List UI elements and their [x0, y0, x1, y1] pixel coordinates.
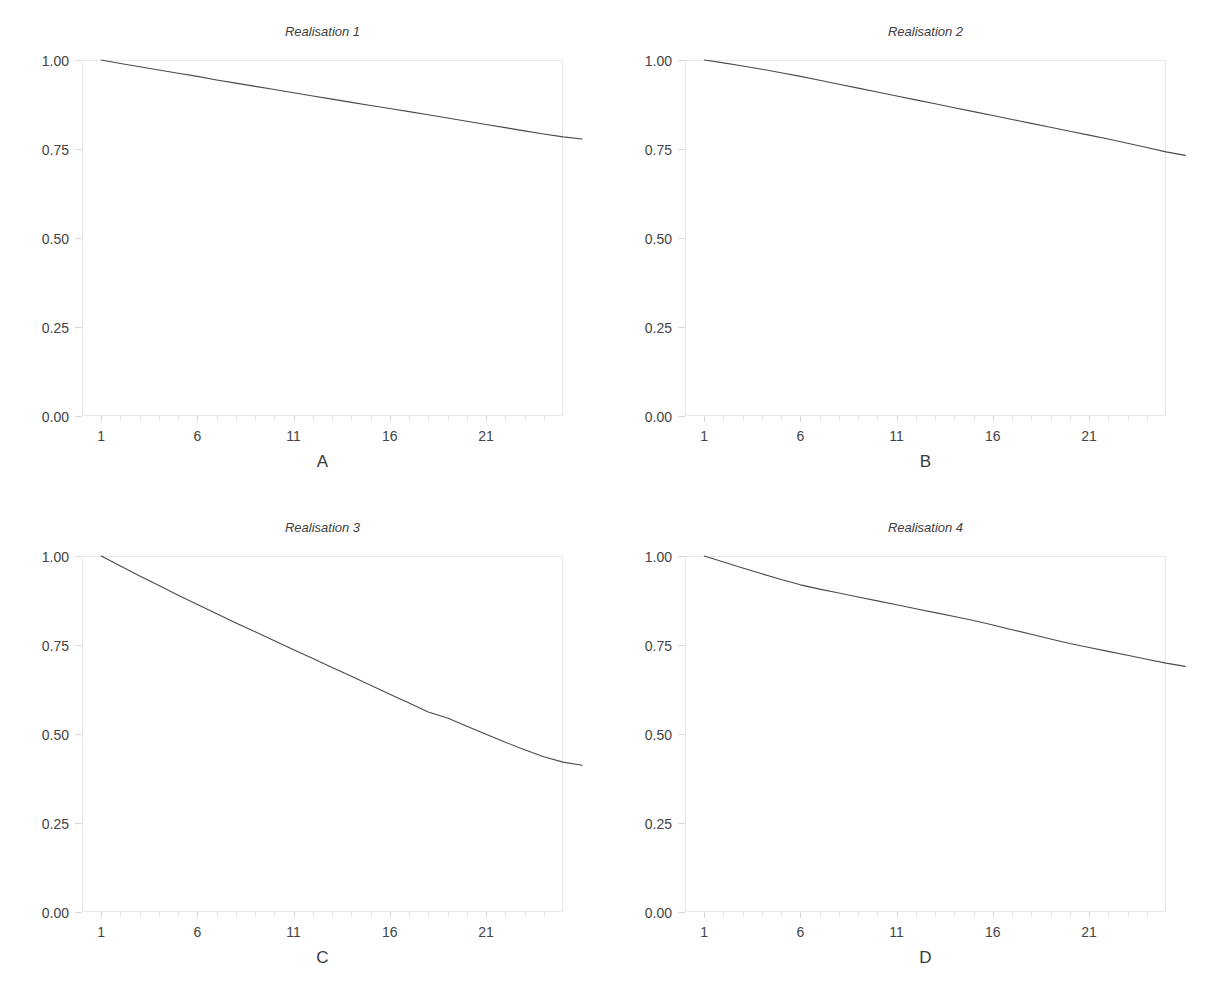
x-tick-label: 6	[194, 428, 202, 444]
chart-panel: Realisation 40.000.250.500.751.001611162…	[603, 496, 1206, 991]
panel-border	[83, 557, 563, 912]
y-tick-label: 0.00	[42, 905, 69, 921]
y-tick-label: 0.00	[645, 409, 672, 425]
panel-border	[686, 557, 1166, 912]
x-tick-label: 21	[1081, 924, 1097, 940]
panel-border	[686, 61, 1166, 416]
y-tick-label: 0.25	[645, 816, 672, 832]
data-series-line	[101, 60, 582, 139]
x-tick-label: 21	[1081, 428, 1097, 444]
x-tick-label: 1	[97, 428, 105, 444]
y-tick-label: 0.75	[645, 638, 672, 654]
panel-title: Realisation 4	[888, 520, 963, 535]
y-tick-label: 0.00	[42, 409, 69, 425]
panel-border	[83, 61, 563, 416]
x-tick-label: 11	[286, 924, 301, 940]
y-tick-label: 1.00	[42, 549, 69, 565]
y-tick-label: 0.50	[42, 231, 69, 247]
x-tick-label: 21	[478, 428, 494, 444]
x-tick-label: 16	[382, 428, 398, 444]
x-axis-label: D	[919, 948, 931, 967]
y-tick-label: 0.00	[645, 905, 672, 921]
x-axis-label: B	[920, 452, 931, 471]
y-tick-label: 0.50	[645, 727, 672, 743]
figure-canvas: Realisation 10.000.250.500.751.001611162…	[0, 0, 1206, 991]
x-tick-label: 1	[97, 924, 105, 940]
y-tick-label: 0.75	[42, 638, 69, 654]
data-series-line	[101, 556, 582, 765]
x-tick-label: 11	[889, 924, 904, 940]
chart-panel: Realisation 10.000.250.500.751.001611162…	[0, 0, 603, 495]
panel-title: Realisation 1	[285, 24, 360, 39]
x-tick-label: 11	[889, 428, 904, 444]
x-tick-label: 21	[478, 924, 494, 940]
y-tick-label: 0.25	[42, 816, 69, 832]
chart-panel: Realisation 20.000.250.500.751.001611162…	[603, 0, 1206, 495]
x-tick-label: 16	[382, 924, 398, 940]
y-tick-label: 1.00	[645, 53, 672, 69]
y-tick-label: 1.00	[42, 53, 69, 69]
panel-title: Realisation 2	[888, 24, 964, 39]
x-tick-label: 1	[700, 428, 708, 444]
y-tick-label: 1.00	[645, 549, 672, 565]
chart-panel: Realisation 30.000.250.500.751.001611162…	[0, 496, 603, 991]
data-series-line	[704, 60, 1185, 155]
x-tick-label: 6	[797, 428, 805, 444]
y-tick-label: 0.50	[42, 727, 69, 743]
x-tick-label: 1	[700, 924, 708, 940]
x-tick-label: 6	[797, 924, 805, 940]
y-tick-label: 0.25	[645, 320, 672, 336]
x-tick-label: 16	[985, 924, 1001, 940]
data-series-line	[704, 556, 1185, 666]
x-axis-label: C	[316, 948, 328, 967]
y-tick-label: 0.75	[42, 142, 69, 158]
y-tick-label: 0.50	[645, 231, 672, 247]
x-tick-label: 11	[286, 428, 301, 444]
x-tick-label: 6	[194, 924, 202, 940]
x-tick-label: 16	[985, 428, 1001, 444]
x-axis-label: A	[317, 452, 329, 471]
y-tick-label: 0.75	[645, 142, 672, 158]
panel-title: Realisation 3	[285, 520, 361, 535]
y-tick-label: 0.25	[42, 320, 69, 336]
